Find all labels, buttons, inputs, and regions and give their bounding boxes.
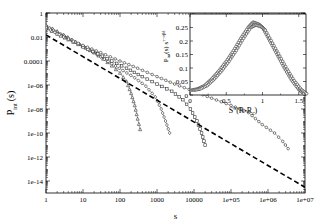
circle-marker bbox=[169, 81, 172, 84]
y-tick-label: 1e-06 bbox=[27, 82, 43, 90]
circle-marker bbox=[281, 140, 284, 143]
inset-y-tick-label: 0 bbox=[185, 92, 189, 100]
circle-marker bbox=[270, 39, 273, 42]
square-marker bbox=[191, 112, 194, 115]
circle-marker bbox=[238, 44, 241, 47]
diamond-marker bbox=[168, 131, 171, 134]
triangle-marker bbox=[134, 108, 137, 111]
square-marker bbox=[129, 69, 132, 72]
circle-marker bbox=[271, 42, 274, 45]
series-line bbox=[46, 29, 205, 145]
circle-marker bbox=[215, 99, 218, 102]
inset-y-tick-label: 0.15 bbox=[176, 51, 189, 59]
circle-marker bbox=[141, 69, 144, 72]
circle-marker bbox=[276, 50, 279, 53]
circle-marker bbox=[86, 46, 89, 49]
square-marker bbox=[166, 88, 169, 91]
inset-y-axis-label-text: Pint(s) sτ+σβδ bbox=[161, 31, 171, 63]
triangle-marker bbox=[137, 122, 140, 125]
circle-marker bbox=[151, 73, 154, 76]
x-tick-label: 1e+07 bbox=[296, 196, 314, 204]
square-marker bbox=[170, 90, 173, 93]
diamond-marker bbox=[129, 74, 132, 77]
y-axis-label-text: Pint(s) bbox=[5, 91, 18, 115]
square-marker bbox=[203, 140, 206, 143]
y-tick-label: 1 bbox=[40, 10, 44, 18]
square-marker bbox=[120, 65, 123, 68]
circle-marker bbox=[210, 97, 213, 100]
square-marker bbox=[101, 55, 104, 58]
circle-marker bbox=[67, 38, 70, 41]
circle-marker bbox=[91, 48, 94, 51]
circle-marker bbox=[49, 29, 52, 32]
circle-marker bbox=[274, 47, 277, 50]
circle-marker bbox=[82, 44, 85, 47]
series-line bbox=[46, 26, 170, 133]
circle-marker bbox=[183, 86, 186, 89]
circle-marker bbox=[109, 56, 112, 59]
square-marker bbox=[137, 73, 140, 76]
x-tick-label: 10 bbox=[80, 196, 88, 204]
circle-marker bbox=[146, 71, 149, 74]
diamond-marker bbox=[167, 127, 170, 130]
circle-marker bbox=[269, 129, 272, 132]
circle-marker bbox=[54, 31, 57, 34]
square-marker bbox=[156, 83, 159, 86]
square-marker bbox=[201, 136, 204, 139]
x-tick-label: 1e+05 bbox=[222, 196, 240, 204]
circle-marker bbox=[160, 77, 163, 80]
x-tick-label: 1 bbox=[44, 196, 48, 204]
y-tick-label: 1e-08 bbox=[27, 106, 43, 114]
diamond-marker bbox=[141, 82, 144, 85]
triangle-marker bbox=[131, 96, 134, 99]
triangle-marker bbox=[130, 92, 133, 95]
circle-marker bbox=[58, 33, 61, 36]
square-marker bbox=[96, 52, 99, 55]
triangle-marker bbox=[133, 104, 136, 107]
square-marker bbox=[200, 132, 203, 135]
diamond-marker bbox=[161, 111, 164, 114]
x-tick-label: 100 bbox=[115, 196, 126, 204]
circle-marker bbox=[99, 51, 102, 54]
circle-marker bbox=[119, 60, 122, 63]
circle-marker bbox=[104, 53, 107, 56]
x-tick-label: 1000 bbox=[150, 196, 165, 204]
square-marker bbox=[196, 120, 199, 123]
square-marker bbox=[115, 62, 118, 65]
y-tick-label: 1e-12 bbox=[27, 154, 43, 162]
triangle-marker bbox=[136, 117, 139, 120]
square-marker bbox=[151, 80, 154, 83]
triangle-marker bbox=[135, 113, 138, 116]
circle-marker bbox=[258, 120, 261, 123]
circle-marker bbox=[241, 39, 244, 42]
inset-y-axis-label: Pint(s) sτ+σβδ bbox=[161, 31, 171, 63]
square-marker bbox=[125, 67, 128, 70]
circle-marker bbox=[305, 92, 308, 95]
circle-marker bbox=[114, 58, 117, 61]
circle-marker bbox=[156, 75, 159, 78]
inset-x-axis-label: Sσ(R-Rc) bbox=[229, 105, 258, 116]
inset-y-tick-label: 0.25 bbox=[176, 24, 189, 32]
circle-marker bbox=[283, 63, 286, 66]
circle-marker bbox=[284, 144, 287, 147]
series-line bbox=[46, 25, 140, 129]
circle-marker bbox=[265, 126, 268, 129]
circle-marker bbox=[279, 55, 282, 58]
circle-marker bbox=[266, 31, 269, 34]
y-tick-label: 0.0001 bbox=[24, 58, 44, 66]
diamond-marker bbox=[160, 107, 163, 110]
x-tick-label: 10000 bbox=[185, 196, 203, 204]
circle-marker bbox=[261, 123, 264, 126]
circle-marker bbox=[136, 67, 139, 70]
circle-marker bbox=[239, 42, 242, 45]
circle-marker bbox=[165, 79, 168, 82]
circle-marker bbox=[235, 49, 238, 52]
circle-marker bbox=[72, 40, 75, 43]
y-tick-label: 1e-14 bbox=[27, 178, 43, 186]
inset-y-tick-label: 0.1 bbox=[179, 65, 188, 73]
circle-marker bbox=[277, 136, 280, 139]
circle-marker bbox=[273, 44, 276, 47]
diamond-marker bbox=[133, 76, 136, 79]
square-marker bbox=[193, 116, 196, 119]
square-marker bbox=[178, 96, 181, 99]
